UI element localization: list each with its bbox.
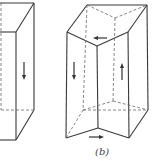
figure-label: (b) bbox=[95, 146, 109, 157]
arrow-right-icon bbox=[89, 135, 104, 139]
right-prism bbox=[66, 5, 148, 139]
arrow-up-icon bbox=[120, 63, 124, 80]
left-prism bbox=[0, 3, 34, 140]
arrow-down-icon bbox=[22, 62, 26, 80]
arrow-down-icon bbox=[72, 62, 76, 80]
prism-diagram bbox=[0, 0, 157, 161]
arrow-left-icon bbox=[93, 36, 107, 40]
